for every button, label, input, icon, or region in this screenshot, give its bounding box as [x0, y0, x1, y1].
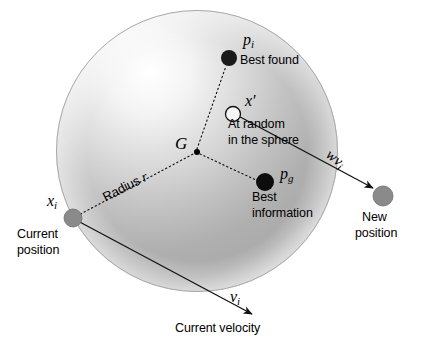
random-point-symbol-prime: ′ — [252, 92, 256, 109]
best-found-caption: Best found — [240, 54, 299, 68]
random-point-caption-line2: in the sphere — [228, 134, 299, 148]
best-found-symbol-subscript: i — [251, 38, 254, 50]
diagram-graphics — [0, 0, 432, 342]
velocity-caption: Current velocity — [175, 322, 260, 336]
best-found-symbol: pi — [243, 31, 254, 51]
random-point-symbol: x′ — [245, 92, 256, 109]
current-position-point[interactable] — [64, 209, 82, 227]
best-information-caption-line1: Best — [252, 191, 277, 205]
centre-of-gravity-point[interactable] — [194, 149, 200, 155]
best-information-symbol: pg — [280, 165, 294, 185]
current-position-caption-line2: position — [17, 244, 59, 258]
new-position-caption-line2: position — [355, 227, 397, 241]
current-position-symbol-subscript: i — [54, 199, 57, 211]
new-position-point[interactable] — [373, 186, 393, 206]
best-information-symbol-subscript: g — [288, 172, 294, 184]
centre-of-gravity-symbol: G — [175, 135, 187, 153]
current-position-symbol: xi — [47, 192, 57, 212]
best-information-caption-line2: information — [252, 207, 313, 221]
best-information-point[interactable] — [256, 173, 274, 191]
velocity-symbol-subscript: i — [237, 295, 240, 307]
new-position-caption-line1: New — [362, 211, 387, 225]
best-information-symbol-base: p — [280, 165, 288, 182]
velocity-symbol: vi — [230, 288, 240, 308]
current-position-caption-line1: Current — [17, 228, 58, 242]
best-found-symbol-base: p — [243, 31, 251, 48]
diagram-canvas: pi Best found x′ At random in the sphere… — [0, 0, 432, 342]
random-point-caption-line1: At random — [228, 118, 285, 132]
best-found-point[interactable] — [221, 50, 237, 66]
